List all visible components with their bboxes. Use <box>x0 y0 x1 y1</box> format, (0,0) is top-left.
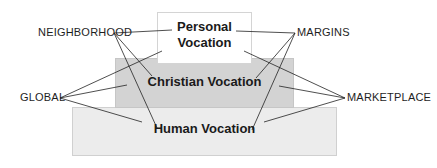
connector-neighborhood-christian <box>114 33 152 76</box>
neighborhood-label: NEIGHBORHOOD <box>38 26 132 39</box>
global-label: GLOBAL <box>20 91 65 104</box>
personal-vocation-label: Personal Vocation <box>157 19 252 51</box>
personal-vocation-label-line1: Personal <box>157 19 252 35</box>
connector-global-human <box>60 98 142 122</box>
christian-vocation-label: Christian Vocation <box>115 74 294 90</box>
margins-label: MARGINS <box>297 26 350 39</box>
human-vocation-label: Human Vocation <box>72 121 337 137</box>
connector-margins-christian <box>256 33 295 78</box>
marketplace-label: MARKETPLACE <box>347 91 431 104</box>
connector-marketplace-human <box>264 98 345 122</box>
personal-vocation-label-line2: Vocation <box>157 35 252 51</box>
